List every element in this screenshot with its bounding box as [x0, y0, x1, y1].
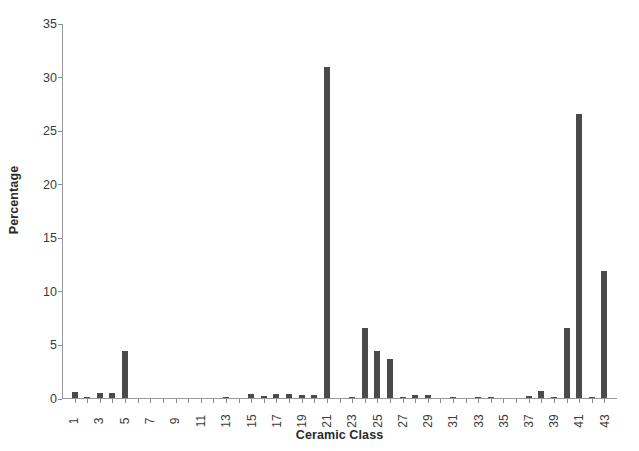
x-axis-tick-mark	[87, 399, 88, 403]
x-axis-tick-mark	[327, 399, 328, 403]
x-axis-tick-mark	[276, 399, 277, 403]
bar	[72, 392, 78, 398]
x-axis-tick-mark	[201, 399, 202, 403]
bar	[488, 397, 494, 399]
x-axis-tick-mark	[100, 399, 101, 403]
x-axis-tick-label-text: 39	[547, 414, 561, 427]
plot-area	[62, 24, 617, 399]
x-axis-tick-mark	[428, 399, 429, 403]
x-axis-tick-mark	[415, 399, 416, 403]
bar	[299, 395, 305, 398]
y-axis: 05101520253035	[28, 0, 62, 451]
x-axis-tick-mark	[403, 399, 404, 403]
y-axis-tick: 0	[28, 392, 62, 406]
x-axis-tick-label-text: 25	[370, 414, 384, 427]
x-axis-tick-label-text: 37	[522, 414, 536, 427]
x-axis-tick-mark	[579, 399, 580, 403]
bar	[97, 393, 103, 398]
x-axis-tick-label-text: 9	[169, 418, 183, 425]
bar	[311, 395, 317, 398]
x-axis-tick-label-text: 21	[320, 414, 334, 427]
x-axis-tick-mark	[604, 399, 605, 403]
x-axis-tick-mark	[503, 399, 504, 403]
bar	[84, 397, 90, 399]
bar	[425, 395, 431, 398]
x-axis-tick-mark	[150, 399, 151, 403]
bar	[551, 397, 557, 399]
x-axis-tick-mark	[188, 399, 189, 403]
x-axis-tick-label-text: 33	[471, 414, 485, 427]
x-axis-tick-mark	[289, 399, 290, 403]
x-axis-tick-label-text: 13	[219, 414, 233, 427]
x-axis-tick-mark	[251, 399, 252, 403]
bar	[576, 114, 582, 398]
bar	[362, 328, 368, 398]
x-axis-tick-mark	[138, 399, 139, 403]
x-axis-tick-label-text: 35	[496, 414, 510, 427]
x-axis-tick-mark	[340, 399, 341, 403]
bar	[122, 351, 128, 398]
bar	[538, 391, 544, 399]
x-axis-tick-mark	[377, 399, 378, 403]
x-axis-tick-mark	[75, 399, 76, 403]
x-axis-tick-label-text: 41	[572, 414, 586, 427]
bar	[450, 397, 456, 399]
bar	[273, 394, 279, 398]
x-axis-tick-mark	[390, 399, 391, 403]
y-axis-tick: 20	[28, 178, 62, 192]
x-axis-tick-label-text: 27	[396, 414, 410, 427]
x-axis-tick-label-text: 43	[597, 414, 611, 427]
bar	[261, 396, 267, 398]
bar	[248, 394, 254, 398]
x-axis-tick-mark	[112, 399, 113, 403]
bars-layer	[62, 24, 617, 399]
x-axis-tick-label-text: 29	[421, 414, 435, 427]
x-axis-tick-mark	[365, 399, 366, 403]
bar	[526, 396, 532, 398]
x-axis-tick-label-text: 23	[345, 414, 359, 427]
x-axis-tick-mark	[516, 399, 517, 403]
bar	[374, 351, 380, 398]
x-axis-tick-mark	[529, 399, 530, 403]
x-axis-tick-mark	[352, 399, 353, 403]
x-axis-tick-label-text: 1	[68, 418, 82, 425]
x-axis-tick-label-text: 17	[269, 414, 283, 427]
x-axis-tick-mark	[226, 399, 227, 403]
x-axis-tick-mark	[176, 399, 177, 403]
x-axis-tick-mark	[213, 399, 214, 403]
x-axis-tick-mark	[567, 399, 568, 403]
y-axis-tick: 15	[28, 231, 62, 245]
x-axis-tick-label-text: 15	[244, 414, 258, 427]
x-axis-tick-mark	[478, 399, 479, 403]
x-axis-tick-mark	[541, 399, 542, 403]
bar	[349, 397, 355, 399]
bar-chart: Percentage 05101520253035 13579111315171…	[0, 0, 639, 451]
bar	[387, 359, 393, 398]
x-axis-tick-mark	[264, 399, 265, 403]
y-axis-tick: 30	[28, 71, 62, 85]
y-axis-tick: 25	[28, 124, 62, 138]
x-axis-tick-mark	[592, 399, 593, 403]
y-axis-tick: 10	[28, 285, 62, 299]
x-axis-tick-label-text: 5	[118, 418, 132, 425]
bar	[475, 397, 481, 399]
y-axis-title-label: Percentage	[7, 166, 21, 234]
x-axis-tick-label-text: 31	[446, 414, 460, 427]
bar	[223, 397, 229, 399]
x-axis-tick-mark	[314, 399, 315, 403]
x-axis-tick-mark	[453, 399, 454, 403]
bar	[400, 397, 406, 399]
x-axis-tick-mark	[440, 399, 441, 403]
x-axis-tick-mark	[302, 399, 303, 403]
x-axis-tick-mark	[239, 399, 240, 403]
y-axis-tick: 5	[28, 338, 62, 352]
x-axis-tick-mark	[163, 399, 164, 403]
bar	[601, 271, 607, 399]
x-axis-tick-label-text: 3	[93, 418, 107, 425]
bar	[286, 394, 292, 398]
x-axis-tick-label-text: 11	[194, 415, 208, 427]
x-axis-tick-mark	[491, 399, 492, 403]
bar	[589, 397, 595, 399]
x-axis-tick-mark	[554, 399, 555, 403]
bar	[412, 395, 418, 398]
